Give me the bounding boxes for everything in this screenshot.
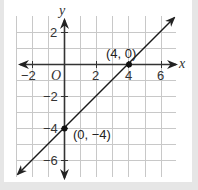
point-label-x-intercept: (4, 0) xyxy=(106,46,136,61)
y-tick-label: −6 xyxy=(43,153,58,168)
coordinate-plane: −2 O 2 4 6 2 −2 −4 −6 x y (4, 0) (0, −4) xyxy=(0,0,198,190)
y-tick-label: −2 xyxy=(43,89,58,104)
y-axis-label: y xyxy=(57,3,66,18)
x-tick-label: 2 xyxy=(92,68,99,83)
y-tick-label: −4 xyxy=(43,121,58,136)
x-tick-label: −2 xyxy=(21,68,36,83)
y-tick-label: 2 xyxy=(50,25,57,40)
point-label-y-intercept: (0, −4) xyxy=(73,127,111,142)
x-axis-label: x xyxy=(178,56,186,71)
x-tick-label: 6 xyxy=(157,68,164,83)
origin-label: O xyxy=(51,68,61,83)
x-tick-label: 4 xyxy=(125,68,132,83)
point-y-intercept xyxy=(62,126,68,132)
point-x-intercept xyxy=(126,62,132,68)
